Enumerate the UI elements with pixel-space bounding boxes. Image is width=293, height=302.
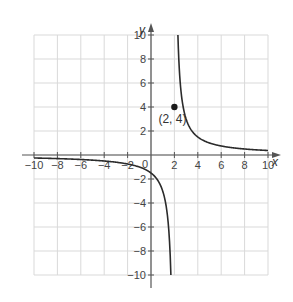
function-graph: −10−8−6−4−2246810108642−2−4−6−8−10 (2, 4… (0, 0, 293, 302)
right-branch-curve (178, 35, 268, 151)
y-tick-label: 2 (140, 125, 146, 137)
y-tick-label: −4 (133, 197, 146, 209)
x-tick-label: −10 (25, 159, 44, 171)
y-axis-label: y (138, 23, 146, 37)
point-marker (171, 104, 177, 110)
point-label: (2, 4) (158, 112, 186, 126)
x-tick-label: −8 (51, 159, 64, 171)
y-tick-label: 6 (140, 77, 146, 89)
y-tick-label: −6 (133, 221, 146, 233)
x-tick-label: 2 (171, 159, 177, 171)
left-branch-curve (34, 158, 171, 275)
x-axis-label: x (271, 155, 279, 169)
x-tick-label: 8 (242, 159, 248, 171)
y-tick-label: −8 (133, 245, 146, 257)
y-tick-label: −2 (133, 173, 146, 185)
axes (22, 23, 281, 288)
y-tick-label: 8 (140, 53, 146, 65)
y-tick-label: −10 (127, 269, 146, 281)
x-tick-label: −6 (75, 159, 88, 171)
x-tick-label: 6 (218, 159, 224, 171)
y-tick-label: 4 (140, 101, 146, 113)
origin-label: 0 (142, 158, 148, 170)
y-axis-arrow-icon (148, 23, 154, 32)
x-tick-label: 4 (195, 159, 201, 171)
